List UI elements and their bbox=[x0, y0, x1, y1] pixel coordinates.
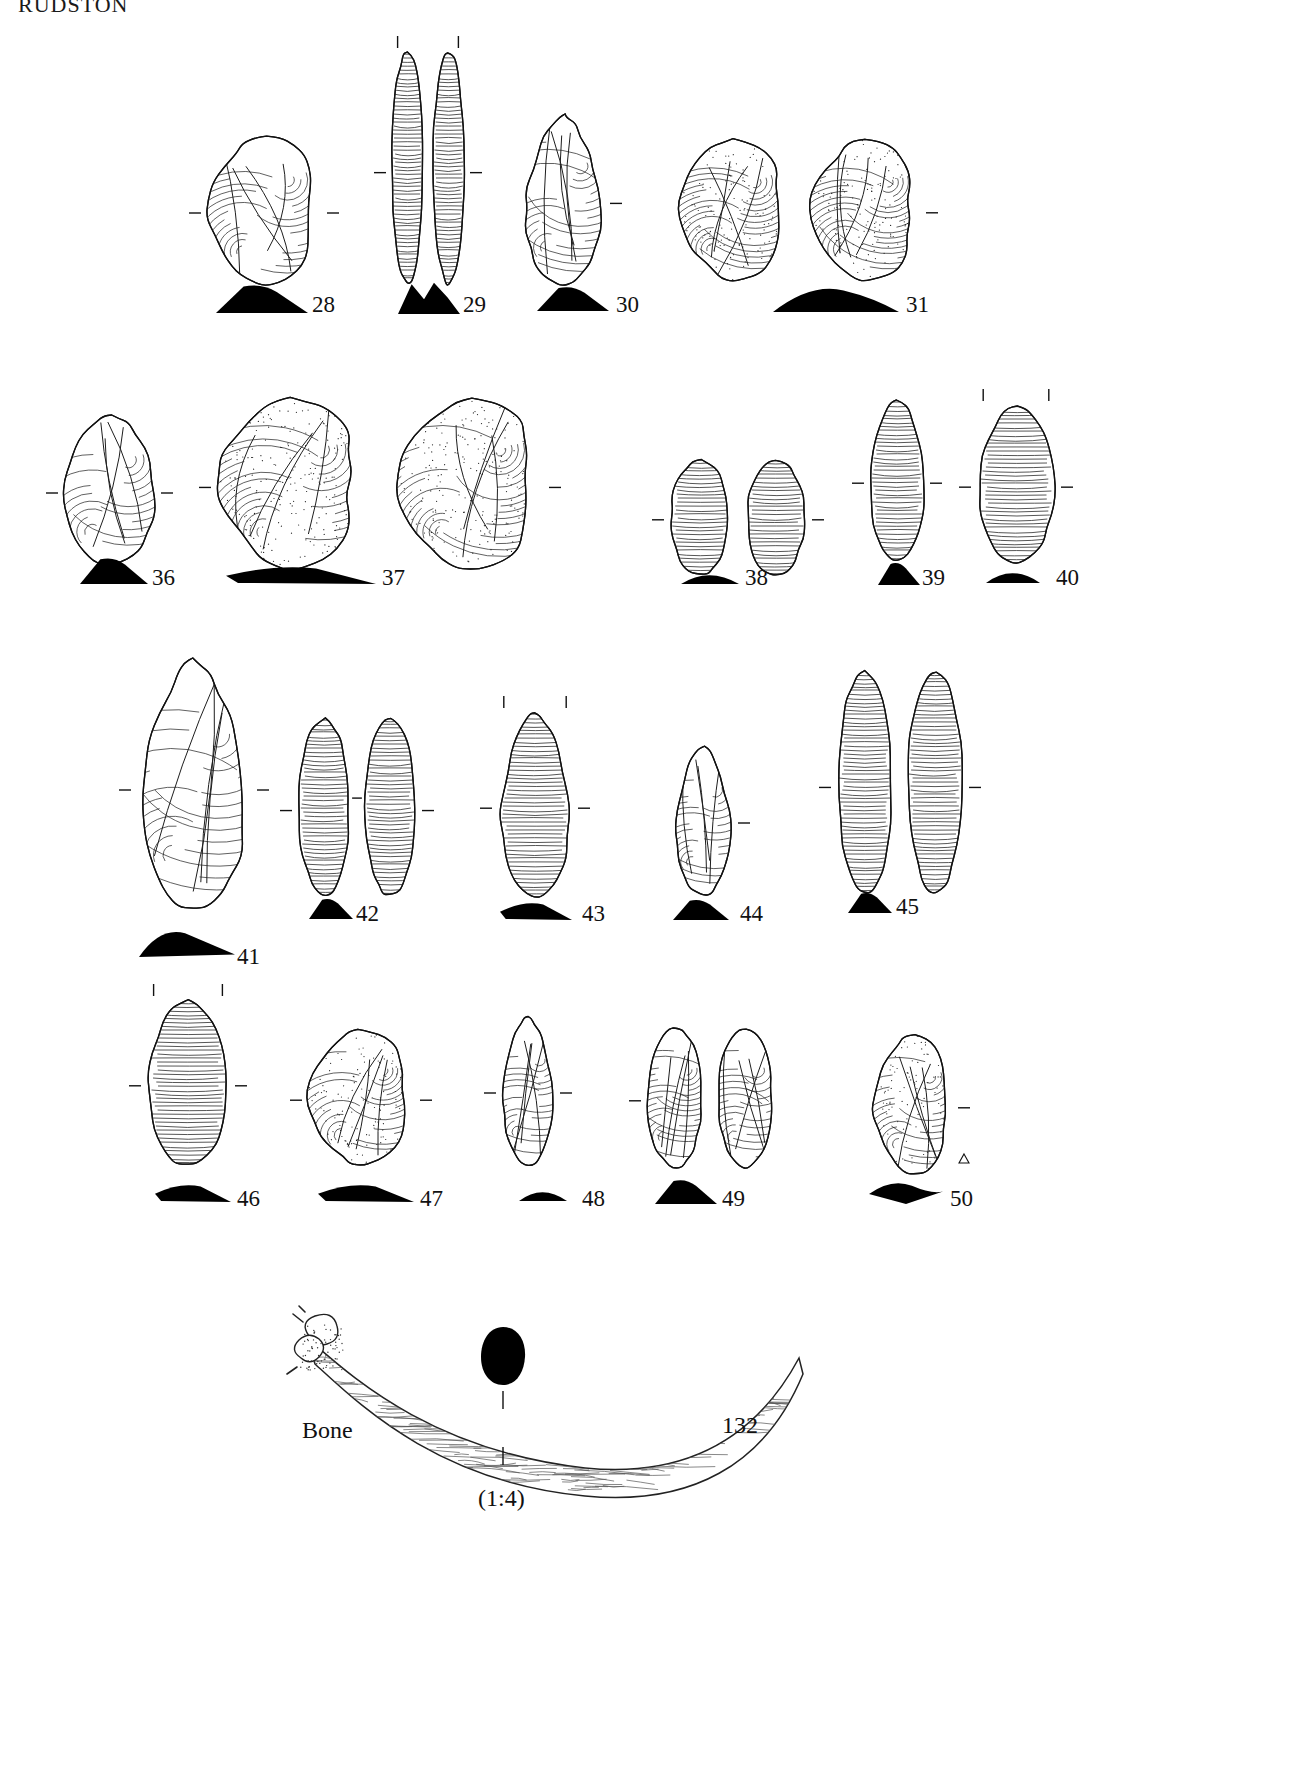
artifact-number-41: 41 bbox=[237, 944, 260, 970]
artifact-31 bbox=[676, 140, 922, 280]
artifact-30 bbox=[520, 115, 606, 285]
bone-number-label: 132 bbox=[722, 1412, 758, 1439]
bone-label: Bone bbox=[302, 1417, 353, 1444]
bone-tick-lower bbox=[500, 1447, 506, 1469]
bone-drawing bbox=[285, 1300, 805, 1510]
profile-silhouette-29 bbox=[398, 281, 460, 318]
artifact-number-30: 30 bbox=[616, 292, 639, 318]
profile-silhouette-41 bbox=[139, 925, 235, 961]
profile-silhouette-43 bbox=[500, 898, 572, 924]
bone-tick-upper bbox=[500, 1391, 506, 1413]
artifact-46 bbox=[145, 1000, 231, 1165]
artifact-number-44: 44 bbox=[740, 901, 763, 927]
artifact-number-45: 45 bbox=[896, 894, 919, 920]
artifact-37 bbox=[215, 398, 545, 570]
artifact-number-43: 43 bbox=[582, 901, 605, 927]
profile-silhouette-39 bbox=[878, 561, 920, 589]
profile-silhouette-50 bbox=[869, 1178, 943, 1208]
artifact-38 bbox=[668, 460, 808, 575]
artifact-number-50: 50 bbox=[950, 1186, 973, 1212]
profile-silhouette-36 bbox=[80, 556, 148, 588]
scale-note: (1:4) bbox=[478, 1485, 525, 1512]
artifact-48 bbox=[500, 1015, 556, 1165]
artifact-28 bbox=[205, 135, 323, 285]
artifact-44 bbox=[672, 745, 734, 895]
artifact-43 bbox=[496, 712, 574, 897]
artifact-number-38: 38 bbox=[745, 565, 768, 591]
profile-silhouette-42 bbox=[309, 897, 353, 923]
page-title: RUDSTON bbox=[18, 0, 129, 18]
artifact-number-31: 31 bbox=[906, 292, 929, 318]
artifact-39 bbox=[868, 400, 926, 560]
artifact-42 bbox=[296, 718, 418, 896]
artifact-40 bbox=[975, 405, 1057, 563]
profile-silhouette-40 bbox=[986, 563, 1040, 587]
artifact-number-37: 37 bbox=[382, 565, 405, 591]
profile-silhouette-38 bbox=[681, 566, 739, 588]
artifact-29 bbox=[390, 52, 466, 284]
artifact-36 bbox=[62, 415, 157, 565]
profile-silhouette-37 bbox=[226, 562, 376, 588]
profile-silhouette-30 bbox=[537, 285, 609, 315]
artifact-number-46: 46 bbox=[237, 1186, 260, 1212]
artifact-41 bbox=[135, 660, 253, 910]
bone-cross-section bbox=[478, 1325, 528, 1391]
delta-marker-icon bbox=[957, 1152, 971, 1170]
artifact-49 bbox=[645, 1028, 775, 1168]
profile-silhouette-28 bbox=[216, 283, 308, 317]
artifact-number-47: 47 bbox=[420, 1186, 443, 1212]
artifact-45 bbox=[835, 672, 965, 894]
artifact-50 bbox=[872, 1035, 954, 1175]
artifact-number-40: 40 bbox=[1056, 565, 1079, 591]
artifact-number-49: 49 bbox=[722, 1186, 745, 1212]
artifact-number-29: 29 bbox=[463, 292, 486, 318]
artifact-number-42: 42 bbox=[356, 901, 379, 927]
profile-silhouette-46 bbox=[155, 1180, 231, 1206]
artifact-number-28: 28 bbox=[312, 292, 335, 318]
illustration-plate: RUDSTON 28293031363738394041424344454647… bbox=[0, 0, 1305, 1786]
profile-silhouette-48 bbox=[519, 1183, 567, 1205]
profile-silhouette-47 bbox=[318, 1180, 414, 1206]
artifact-number-36: 36 bbox=[152, 565, 175, 591]
profile-silhouette-31 bbox=[773, 282, 899, 316]
profile-silhouette-44 bbox=[673, 898, 729, 924]
artifact-number-48: 48 bbox=[582, 1186, 605, 1212]
profile-silhouette-45 bbox=[848, 891, 892, 917]
artifact-47 bbox=[306, 1030, 416, 1165]
profile-silhouette-49 bbox=[655, 1178, 717, 1208]
artifact-number-39: 39 bbox=[922, 565, 945, 591]
